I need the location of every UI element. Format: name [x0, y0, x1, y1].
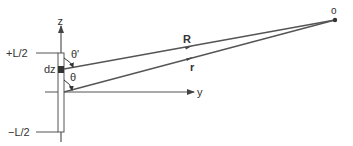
theta-label: θ	[70, 71, 76, 83]
vector-R	[64, 20, 335, 69]
dipole-diagram: z y +L/2 −L/2 dz R r o θ' θ	[0, 0, 353, 146]
vector-R-label: R	[183, 33, 191, 45]
vector-r	[64, 20, 335, 92]
vector-r-label: r	[190, 61, 195, 73]
dz-element	[58, 66, 64, 73]
bottom-end-label: −L/2	[8, 126, 30, 138]
observation-point-label: o	[331, 5, 337, 16]
top-end-label: +L/2	[6, 47, 28, 59]
y-axis-label: y	[197, 86, 203, 98]
dipole-antenna	[58, 53, 64, 132]
theta-prime-label: θ'	[71, 48, 79, 60]
dz-label: dz	[44, 63, 56, 75]
observation-point	[333, 18, 337, 22]
z-axis-label: z	[58, 15, 64, 27]
